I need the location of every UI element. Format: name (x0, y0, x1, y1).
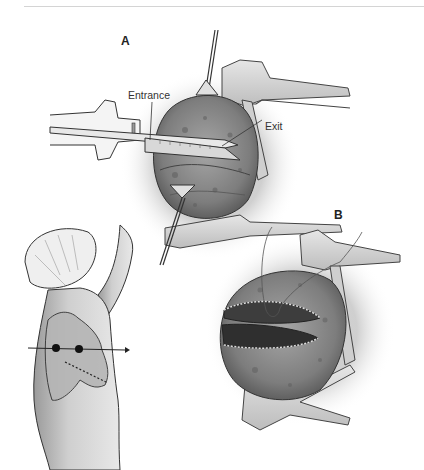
panel-a-label: A (121, 34, 130, 48)
panel-b-drawing (205, 227, 400, 430)
patient-figure (25, 225, 133, 470)
panel-b-label: B (334, 208, 343, 222)
surgical-illustration (0, 0, 424, 470)
entrance-callout: Entrance (128, 89, 170, 101)
exit-callout: Exit (265, 120, 283, 132)
panel-a-drawing (50, 30, 350, 265)
